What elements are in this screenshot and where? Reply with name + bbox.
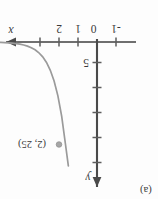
exponential-graph-svg: -1 0 1 2 x 5 y: [0, 0, 158, 199]
point-marker-2-25: [56, 142, 62, 148]
x-tick-label--1: -1: [111, 23, 121, 35]
y-axis-arrowhead: [93, 177, 102, 187]
y-axis-label: y: [85, 171, 92, 184]
x-tick-label-1: 1: [75, 23, 81, 35]
y-tick-label-5: 5: [83, 57, 89, 69]
x-tick-label-0: 0: [90, 23, 96, 35]
figure-panel: -1 0 1 2 x 5 y: [0, 0, 158, 199]
x-axis-label: x: [8, 25, 15, 37]
point-label-2-25: (2, 25): [18, 138, 46, 150]
rotated-plot-container: -1 0 1 2 x 5 y: [0, 0, 158, 199]
y-axis-group: [93, 39, 102, 187]
x-tick-label-2: 2: [56, 23, 62, 35]
panel-label: (a): [140, 185, 152, 196]
